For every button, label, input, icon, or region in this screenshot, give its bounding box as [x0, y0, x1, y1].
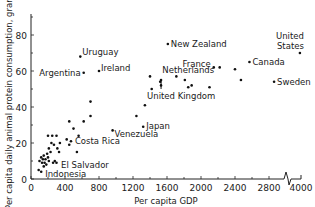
x-tick-label: 2800: [258, 183, 281, 193]
data-point-labeled: [70, 140, 73, 143]
data-point: [89, 100, 92, 103]
x-tick-label: 2400: [224, 183, 247, 193]
data-point: [72, 127, 75, 130]
data-point-labeled: [142, 126, 145, 129]
data-point-labeled: [52, 162, 55, 165]
data-point: [46, 153, 49, 156]
point-label: Ireland: [101, 63, 130, 73]
data-point: [53, 144, 56, 147]
data-point: [41, 162, 44, 165]
point-label: Netherlands: [162, 65, 214, 75]
data-point: [50, 142, 53, 145]
data-point-labeled: [82, 72, 85, 75]
data-point: [68, 120, 71, 123]
y-tick-label: 80: [16, 31, 28, 41]
data-point: [51, 135, 54, 138]
data-point: [82, 120, 85, 123]
data-point: [48, 160, 51, 163]
data-point: [47, 135, 50, 138]
data-point: [218, 66, 221, 69]
point-label: Sweden: [277, 77, 311, 87]
point-label: Venezuela: [115, 129, 159, 139]
data-point: [58, 151, 61, 154]
data-point-labeled: [111, 129, 114, 132]
x-axis-label: Per capita GDP: [134, 196, 197, 206]
data-point: [49, 151, 52, 154]
data-point: [240, 79, 243, 82]
data-point: [65, 138, 68, 141]
data-point: [89, 115, 92, 118]
data-point: [55, 135, 58, 138]
data-point-labeled: [299, 52, 302, 55]
x-tick-label: 1200: [122, 183, 145, 193]
data-point: [234, 68, 237, 71]
data-point: [42, 158, 45, 161]
data-point: [150, 88, 153, 91]
data-point-labeled: [79, 55, 82, 58]
point-label: Costa Rica: [75, 136, 120, 146]
point-label: Argentina: [39, 68, 80, 78]
data-point: [44, 158, 47, 161]
point-label: New Zealand: [171, 39, 227, 49]
plot-area: 0204060800400800120016002000240028004000…: [0, 0, 315, 207]
data-point: [38, 160, 41, 163]
data-point: [37, 169, 40, 172]
data-point: [68, 144, 71, 147]
data-point: [144, 104, 147, 107]
data-point-labeled: [40, 171, 43, 174]
data-point: [76, 151, 79, 154]
data-point-labeled: [273, 81, 276, 84]
data-point: [56, 147, 59, 150]
data-point: [149, 75, 152, 78]
data-point: [208, 86, 211, 89]
scatter-chart: 0204060800400800120016002000240028004000…: [0, 0, 315, 207]
point-label: Uruguay: [82, 47, 118, 57]
data-point: [47, 156, 50, 159]
y-tick-label: 60: [16, 67, 28, 77]
data-point: [45, 163, 48, 166]
data-point: [42, 154, 45, 157]
point-label: United: [276, 31, 304, 41]
data-point: [190, 84, 193, 87]
x-tick-label: 2000: [190, 183, 213, 193]
data-point-labeled: [175, 75, 178, 78]
point-label: Canada: [252, 57, 284, 67]
data-point-labeled: [248, 61, 251, 64]
x-tick-label: 800: [90, 183, 107, 193]
x-tick-label: 0: [28, 183, 34, 193]
data-point: [42, 165, 45, 168]
data-point: [187, 86, 190, 89]
data-point: [55, 162, 58, 165]
point-label: Indonesia: [45, 169, 86, 179]
y-tick-label: 40: [16, 103, 28, 113]
y-tick-label: 0: [21, 175, 27, 185]
data-point: [48, 147, 51, 150]
x-tick-label: 1600: [156, 183, 179, 193]
data-point-labeled: [98, 70, 101, 73]
data-point: [184, 79, 187, 82]
point-label: States: [277, 41, 304, 51]
x-tick-label: 400: [56, 183, 73, 193]
data-point-labeled: [167, 43, 170, 46]
x-tick-label: 4000: [290, 183, 313, 193]
y-tick-label: 20: [16, 139, 28, 149]
data-point: [59, 142, 62, 145]
data-point: [135, 115, 138, 118]
y-axis-label: Per capita daily animal protein consumpt…: [4, 0, 14, 207]
point-label: United Kingdom: [147, 91, 215, 101]
